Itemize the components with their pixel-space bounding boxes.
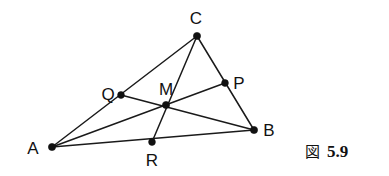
label-Q: Q [101,85,114,104]
figure-container: A B C Q P R M 図 5.9 [0,0,389,176]
caption-number-label: 5.9 [327,143,348,160]
label-R: R [146,151,158,170]
label-C: C [190,9,202,28]
label-A: A [27,139,39,158]
segment-BQ [121,95,254,130]
label-P: P [233,74,244,93]
point-Q-dot [118,92,125,99]
point-P-dot [222,80,229,87]
label-B: B [263,121,274,140]
point-M-dot [162,101,169,108]
point-B-dot [250,126,257,133]
point-A-dot [48,143,55,150]
figure-caption: 図 5.9 [305,143,348,160]
caption-kanji-label: 図 [305,145,320,160]
cevians [52,36,254,147]
triangle-sides [52,36,254,147]
point-R-dot [149,139,156,146]
segment-CA [52,36,197,147]
point-C-dot [193,32,200,39]
label-M: M [159,80,173,99]
